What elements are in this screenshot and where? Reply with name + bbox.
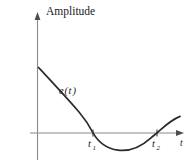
tick-label-t1-subscript: 1 [93, 144, 97, 152]
plot-background [0, 0, 193, 166]
x-axis-label-t: t [180, 138, 183, 148]
curve-label-group: e ( t ) [59, 85, 77, 97]
curve-label-paren-close: ) [72, 85, 77, 97]
curve-label-e: e [59, 85, 64, 96]
figure-container: Amplitude e ( t ) t 1 t 2 t [0, 0, 193, 166]
amplitude-vs-time-plot: Amplitude e ( t ) t 1 t 2 t [0, 0, 193, 166]
y-axis-title: Amplitude [46, 5, 95, 18]
tick-label-t2-subscript: 2 [157, 144, 161, 152]
